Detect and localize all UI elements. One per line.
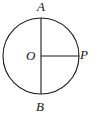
point-label-o: O: [26, 49, 35, 62]
geometry-figure: A P O B: [0, 0, 97, 116]
point-label-b: B: [36, 100, 44, 113]
point-label-a: A: [37, 0, 45, 13]
point-label-p: P: [80, 48, 88, 61]
